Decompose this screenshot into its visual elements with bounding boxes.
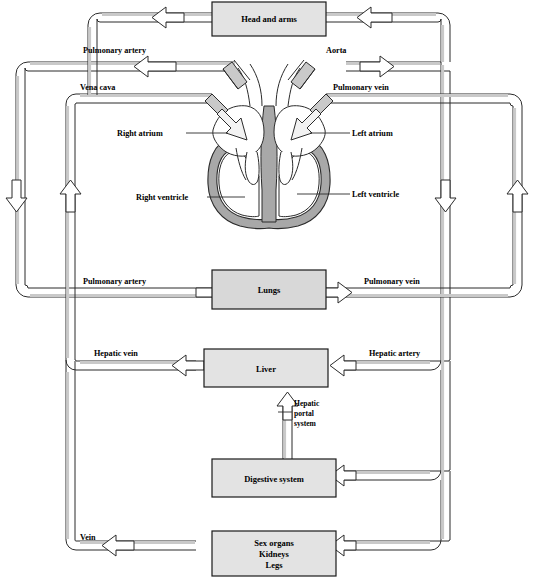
label-pulmonary-artery-lower: Pulmonary artery [83,277,147,286]
arrow-vein [102,535,134,556]
arrow-aorta-down [435,180,456,212]
box-head-and-arms[interactable]: Head and arms [212,2,326,36]
box-lungs[interactable]: Lungs [212,270,326,309]
arrow-hepatic-vein [172,355,204,376]
label-aorta: Aorta [326,46,346,55]
arrow-out-of-lungs [324,282,352,303]
arrow-pulmonary-artery-down [6,180,27,212]
box-liver[interactable]: Liver [204,349,328,387]
mitral-valve [279,152,293,185]
box-sex-organs-kidneys-legs[interactable]: Sex organs Kidneys Legs [212,531,336,576]
label-hepatic-portal-line1: Hepatic [294,399,320,408]
label-hepatic-portal-line2: portal [294,409,314,418]
arrow-aorta [360,56,394,77]
label-pulmonary-vein-upper: Pulmonary vein [333,83,389,92]
label-hepatic-vein: Hepatic vein [94,349,138,358]
box-digestive-system-label: Digestive system [244,474,304,484]
organ-boxes: Head and arms Lungs Liver Digestive syst… [204,2,336,576]
aortic-root-2 [276,64,288,106]
label-pulmonary-vein-lower: Pulmonary vein [364,277,420,286]
box-lungs-label: Lungs [258,285,281,295]
box-head-and-arms-label: Head and arms [241,14,297,24]
box-sex-organs-label-line3: Legs [266,560,284,570]
heart-illustration [205,60,333,229]
vessel-pulmonary-artery-left [6,62,235,297]
box-sex-organs-label-line2: Kidneys [259,549,289,559]
label-pulmonary-artery-upper: Pulmonary artery [83,46,147,55]
label-hepatic-portal-line3: system [294,419,317,428]
arrow-head-return [152,7,184,28]
vessel-vena-cava-trunk [66,360,196,550]
diagram-canvas: Head and arms Lungs Liver Digestive syst… [0,0,538,582]
box-digestive-system[interactable]: Digestive system [212,459,336,497]
label-vein: Vein [80,533,96,542]
arrow-hepatic-artery [330,355,356,376]
label-left-atrium: Left atrium [352,129,393,138]
box-sex-organs-label-line1: Sex organs [254,538,294,548]
arrow-pulmonary-vein-up [507,180,528,212]
arrow-vena-cava-up [60,180,81,212]
label-left-ventricle: Left ventricle [352,190,399,199]
arrow-pulmonary-artery-upper [134,56,176,77]
circulation-diagram: Head and arms Lungs Liver Digestive syst… [0,0,538,582]
label-vena-cava: Vena cava [80,83,115,92]
arrow-into-head [357,7,392,28]
label-right-ventricle: Right ventricle [136,193,188,202]
label-hepatic-artery: Hepatic artery [369,349,421,358]
box-liver-label: Liver [256,364,276,374]
pulmonary-trunk-root-2 [250,64,262,106]
label-right-atrium: Right atrium [117,129,163,138]
tricuspid-valve [245,152,259,185]
